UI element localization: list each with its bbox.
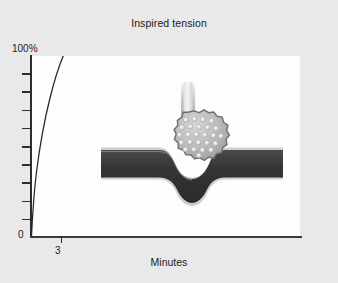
y-axis-line: [30, 55, 32, 237]
y-axis-tick: [22, 146, 30, 148]
y-axis-tick: [22, 164, 30, 166]
plot-area: [31, 56, 300, 236]
x-axis-title: Minutes: [0, 256, 338, 268]
page-title: Inspired tension: [0, 17, 338, 29]
x-axis-line: [30, 236, 302, 238]
y-axis-min-label: 0: [18, 229, 24, 240]
figure-container: Inspired tension 100% 0 3 Minutes: [0, 0, 338, 283]
y-axis-tick: [22, 201, 30, 203]
y-axis-tick: [22, 91, 30, 93]
y-axis-tick: [22, 110, 30, 112]
y-axis-tick: [22, 73, 30, 75]
y-axis-tick: [22, 128, 30, 130]
x-axis-tick: [61, 236, 63, 243]
y-axis-max-label: 100%: [12, 43, 38, 54]
y-axis-tick: [22, 182, 30, 184]
x-axis-tick-label-3: 3: [55, 245, 61, 256]
y-axis-tick: [22, 219, 30, 221]
